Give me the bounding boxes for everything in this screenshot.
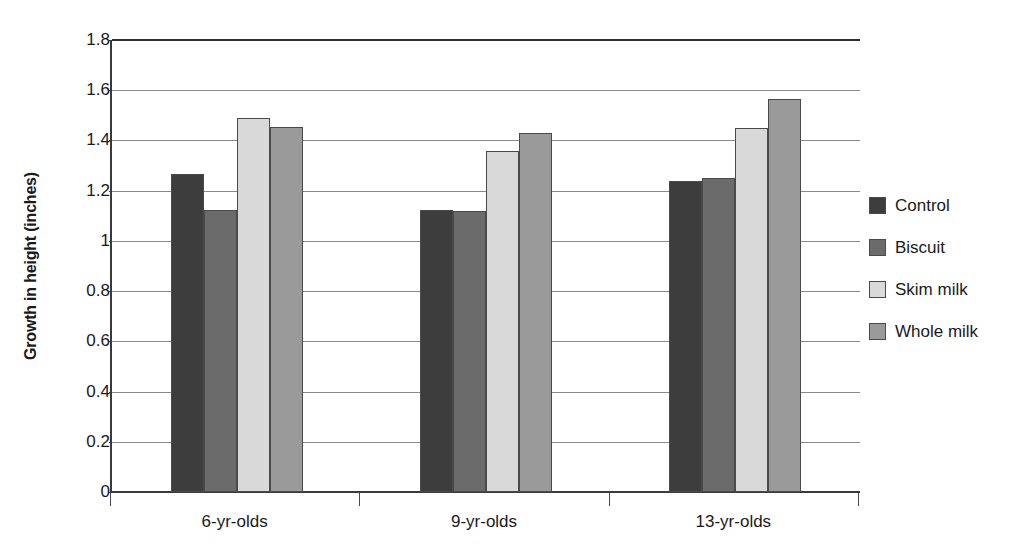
bar: [204, 210, 237, 493]
y-tick-label: 1.4: [52, 130, 110, 150]
bar: [519, 133, 552, 492]
y-tick-label: 1.2: [52, 181, 110, 201]
y-tick-label: 1.6: [52, 80, 110, 100]
bar: [270, 127, 303, 492]
y-tick-label: 0.6: [52, 331, 110, 351]
y-tick-label: 0: [52, 482, 110, 502]
bar: [453, 211, 486, 492]
x-category-label: 6-yr-olds: [202, 512, 268, 532]
legend-label: Control: [895, 193, 950, 218]
legend-label: Whole milk: [895, 319, 978, 344]
x-axis-tick: [609, 493, 610, 506]
gridline: [112, 39, 860, 41]
bar: [486, 151, 519, 493]
x-axis-tick: [359, 493, 360, 506]
legend-label: Skim milk: [895, 277, 968, 302]
bar: [768, 99, 801, 492]
bar: [735, 128, 768, 492]
bar: [171, 174, 204, 492]
y-tick-label: 0.8: [52, 281, 110, 301]
y-tick-label: 0.2: [52, 432, 110, 452]
legend-label: Biscuit: [895, 235, 945, 260]
y-axis-ticks: 00.20.40.60.811.21.41.61.8: [44, 40, 110, 492]
bar-chart: Growth in height (inches) 00.20.40.60.81…: [0, 0, 1022, 557]
legend-swatch-icon: [869, 239, 886, 256]
y-tick-label: 0.4: [52, 382, 110, 402]
legend-swatch-icon: [869, 323, 886, 340]
y-axis-title: Growth in height (inches): [18, 40, 44, 492]
gridline: [112, 90, 860, 91]
x-category-label: 9-yr-olds: [451, 512, 517, 532]
x-axis-tick: [858, 493, 859, 506]
bar: [420, 210, 453, 493]
y-tick-label: 1: [52, 231, 110, 251]
legend-swatch-icon: [869, 281, 886, 298]
bar: [669, 181, 702, 492]
y-tick-label: 1.8: [52, 30, 110, 50]
bar: [237, 118, 270, 492]
legend-swatch-icon: [869, 197, 886, 214]
plot-area: [110, 40, 858, 492]
x-axis-tick: [110, 493, 111, 506]
bar: [702, 178, 735, 492]
x-category-label: 13-yr-olds: [696, 512, 772, 532]
